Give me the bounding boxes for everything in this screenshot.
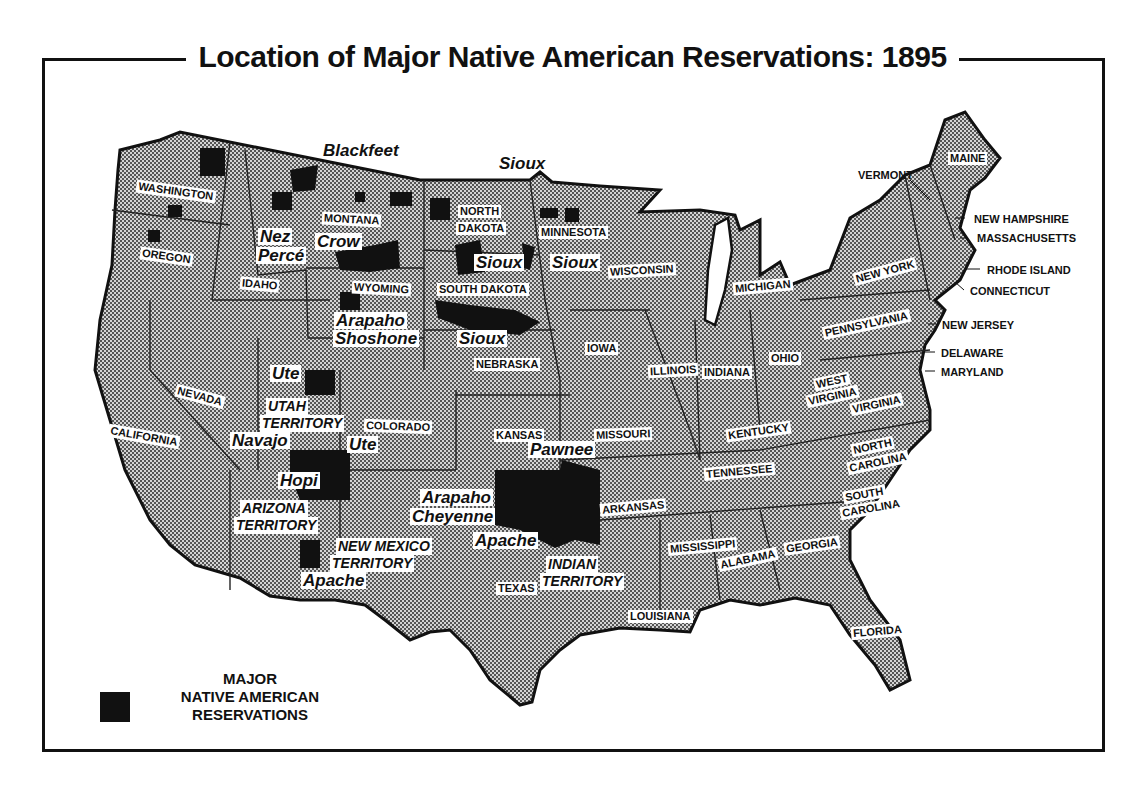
tribe-label: Navajo <box>230 432 290 449</box>
state-label: MAINE <box>948 152 987 165</box>
state-label: NEBRASKA <box>474 358 540 371</box>
state-label: IOWA <box>585 342 618 355</box>
reservation-oregon <box>148 230 160 242</box>
callout-label: VERMONT <box>856 169 915 182</box>
territory-label: TERRITORY <box>540 573 624 590</box>
tribe-label: Apache <box>301 572 366 589</box>
tribe-label: Ute <box>270 365 301 382</box>
territory-label: ARIZONA <box>240 500 308 517</box>
reservation-apache-az <box>300 540 320 568</box>
legend-line-2: NATIVE AMERICAN <box>140 688 360 706</box>
state-label: DAKOTA <box>456 222 506 235</box>
state-label: TEXAS <box>496 582 537 595</box>
state-label: COLORADO <box>364 419 433 434</box>
state-label: INDIANA <box>702 366 752 379</box>
tribe-label: Arapaho <box>334 312 407 329</box>
territory-label: NEW MEXICO <box>336 538 432 555</box>
callout-label: DELAWARE <box>939 347 1005 360</box>
reservation-shoshone <box>340 292 360 310</box>
territory-label: TERRITORY <box>260 415 344 432</box>
state-label: NORTH <box>458 205 501 218</box>
tribe-label: Sioux <box>550 254 600 271</box>
reservation-montana-2 <box>390 192 412 206</box>
reservation-montana-1 <box>272 192 292 210</box>
state-label: OHIO <box>769 352 801 365</box>
state-label: ILLINOIS <box>648 363 699 379</box>
reservation-montana-3 <box>355 192 365 202</box>
callout-label: NEW HAMPSHIRE <box>972 213 1071 226</box>
tribe-label: Sioux <box>457 330 507 347</box>
territory-label: TERRITORY <box>330 555 414 572</box>
tribe-label: Apache <box>473 532 538 549</box>
reservation-swatch-icon <box>100 692 130 722</box>
tribe-label: Sioux <box>497 155 547 172</box>
reservation-nd <box>430 198 450 220</box>
tribe-label: Blackfeet <box>321 142 401 159</box>
reservation-mn-1 <box>540 208 558 218</box>
tribe-label: Percé <box>256 247 306 264</box>
legend-text: MAJOR NATIVE AMERICAN RESERVATIONS <box>140 670 360 724</box>
legend-line-1: MAJOR <box>140 670 360 688</box>
tribe-label: Cheyenne <box>410 508 495 525</box>
callout-label: NEW JERSEY <box>940 319 1016 332</box>
tribe-label: Sioux <box>474 254 524 271</box>
reservation-washington-1 <box>200 148 225 176</box>
reservation-ute <box>305 370 335 395</box>
state-label: LOUISIANA <box>628 610 693 623</box>
state-label: MISSOURI <box>594 427 653 442</box>
callout-label: RHODE ISLAND <box>985 264 1073 277</box>
reservation-washington-2 <box>168 205 182 217</box>
tribe-label: Shoshone <box>333 330 419 347</box>
tribe-label: Nez <box>258 228 292 245</box>
state-label: SOUTH DAKOTA <box>437 283 529 296</box>
territory-label: TERRITORY <box>234 517 318 534</box>
callout-label: MASSACHUSETTS <box>975 232 1078 245</box>
tribe-label: Arapaho <box>420 489 493 506</box>
state-label: MINNESOTA <box>539 226 608 239</box>
territory-label: INDIAN <box>546 556 598 573</box>
legend-line-3: RESERVATIONS <box>140 706 360 724</box>
tribe-label: Hopi <box>278 472 320 489</box>
reservation-mn-2 <box>565 208 579 222</box>
tribe-label: Crow <box>315 233 362 250</box>
tribe-label: Ute <box>347 436 378 453</box>
callout-label: MARYLAND <box>939 366 1006 379</box>
tribe-label: Pawnee <box>528 441 595 458</box>
territory-label: UTAH <box>266 398 308 415</box>
callout-label: CONNECTICUT <box>968 285 1052 298</box>
